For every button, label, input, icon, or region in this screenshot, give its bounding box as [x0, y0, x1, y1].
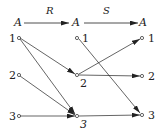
node-mid-3 — [75, 114, 78, 117]
edges-r — [20, 38, 75, 116]
edges-s — [79, 39, 140, 116]
edge-r-1-2 — [20, 38, 75, 74]
edge-s-3-3 — [79, 115, 140, 116]
relation-r-label: R — [45, 5, 54, 16]
right-column: 1 2 3 — [140, 32, 155, 122]
node-right-1 — [140, 36, 143, 39]
edge-s-2-2 — [79, 75, 140, 76]
node-left-2 — [17, 73, 20, 76]
set-left-label: A — [13, 16, 22, 29]
left-column: 1 2 3 — [9, 32, 21, 123]
node-mid-1 — [75, 36, 78, 39]
label-right-2: 2 — [148, 70, 155, 83]
edge-r-2-3 — [20, 76, 75, 115]
label-left-2: 2 — [9, 69, 16, 82]
relation-s-label: S — [103, 5, 110, 16]
label-mid-1: 1 — [82, 32, 89, 45]
label-left-1: 1 — [9, 32, 16, 45]
node-mid-2 — [75, 73, 78, 76]
label-left-3: 3 — [9, 110, 16, 123]
node-right-3 — [140, 113, 143, 116]
set-middle-label: A — [71, 16, 80, 29]
label-right-1: 1 — [148, 32, 155, 45]
node-left-3 — [17, 114, 20, 117]
set-right-label: A — [138, 16, 147, 29]
edge-r-1-3 — [20, 39, 75, 114]
label-mid-3: 3 — [80, 118, 87, 131]
relation-diagram: A --S--> A --> A R A S A 1 2 3 1 2 3 — [0, 0, 165, 134]
label-right-3: 3 — [148, 109, 155, 122]
node-right-2 — [140, 74, 143, 77]
node-left-1 — [17, 36, 20, 39]
label-mid-2: 2 — [80, 77, 87, 90]
